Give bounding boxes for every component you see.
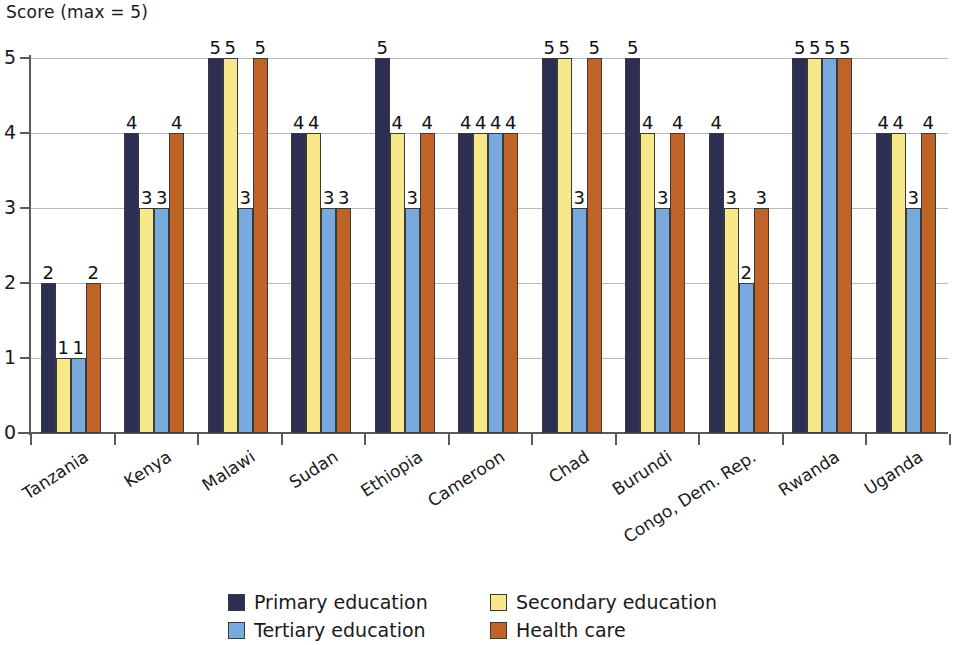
- bar[interactable]: 3: [336, 208, 351, 433]
- chart-axis-title: Score (max = 5): [6, 2, 148, 22]
- bar-group: 4444: [448, 58, 532, 433]
- bar[interactable]: 1: [71, 358, 86, 433]
- bar-value-label: 4: [923, 114, 934, 132]
- bar[interactable]: 4: [876, 133, 891, 433]
- x-tick-mark: [114, 434, 116, 445]
- bar[interactable]: 3: [572, 208, 587, 433]
- bar[interactable]: 4: [891, 133, 906, 433]
- y-tick-mark: [20, 207, 30, 209]
- legend-item-primary-education: Primary education: [228, 593, 490, 612]
- x-tick-mark: [30, 434, 32, 445]
- bar[interactable]: 4: [291, 133, 306, 433]
- bar[interactable]: 5: [625, 58, 640, 433]
- legend-row: Primary education Secondary education: [228, 588, 788, 616]
- bar-group: 4433: [281, 58, 365, 433]
- bar[interactable]: 5: [822, 58, 837, 433]
- bar[interactable]: 5: [223, 58, 238, 433]
- bar-value-label: 3: [908, 189, 919, 207]
- bar[interactable]: 4: [921, 133, 936, 433]
- x-tick-mark: [364, 434, 366, 445]
- bar[interactable]: 5: [557, 58, 572, 433]
- legend-swatch-icon: [490, 594, 507, 611]
- bar[interactable]: 4: [709, 133, 724, 433]
- bar-group: 4323: [698, 58, 782, 433]
- bar-value-label: 3: [726, 189, 737, 207]
- bar[interactable]: 3: [724, 208, 739, 433]
- bar[interactable]: 3: [655, 208, 670, 433]
- legend-item-health-care: Health care: [490, 621, 752, 640]
- x-tick-mark: [615, 434, 617, 445]
- x-tick-mark: [698, 434, 700, 445]
- bar[interactable]: 4: [488, 133, 503, 433]
- bar-value-label: 2: [88, 264, 99, 282]
- bar-value-label: 3: [156, 189, 167, 207]
- bar-value-label: 3: [323, 189, 334, 207]
- bar-value-label: 5: [225, 39, 236, 57]
- bar[interactable]: 1: [56, 358, 71, 433]
- legend-label: Primary education: [254, 593, 428, 612]
- bar-value-label: 5: [544, 39, 555, 57]
- x-tick-mark: [531, 434, 533, 445]
- bar-value-label: 4: [308, 114, 319, 132]
- bar[interactable]: 5: [587, 58, 602, 433]
- y-tick-mark: [20, 432, 30, 434]
- chart-legend: Primary education Secondary education Te…: [228, 588, 788, 644]
- bar-value-label: 4: [505, 114, 516, 132]
- bar-value-label: 3: [407, 189, 418, 207]
- bar[interactable]: 4: [390, 133, 405, 433]
- bar[interactable]: 4: [503, 133, 518, 433]
- bar[interactable]: 4: [670, 133, 685, 433]
- x-axis-label: Malawi: [199, 448, 258, 494]
- x-axis-label: Sudan: [287, 448, 341, 491]
- x-axis-label: Rwanda: [776, 448, 842, 499]
- bar[interactable]: 3: [405, 208, 420, 433]
- bar[interactable]: 5: [542, 58, 557, 433]
- bar[interactable]: 3: [754, 208, 769, 433]
- bar-value-label: 4: [460, 114, 471, 132]
- bar[interactable]: 3: [139, 208, 154, 433]
- bar-value-label: 4: [490, 114, 501, 132]
- bar[interactable]: 3: [321, 208, 336, 433]
- x-tick-mark: [782, 434, 784, 445]
- legend-label: Secondary education: [516, 593, 717, 612]
- bar-value-label: 5: [839, 39, 850, 57]
- bar-value-label: 4: [171, 114, 182, 132]
- bar[interactable]: 4: [124, 133, 139, 433]
- bar[interactable]: 3: [906, 208, 921, 433]
- y-tick-mark: [20, 57, 30, 59]
- bar[interactable]: 3: [238, 208, 253, 433]
- bar[interactable]: 4: [458, 133, 473, 433]
- bar-group: 4434: [865, 58, 949, 433]
- bar[interactable]: 5: [253, 58, 268, 433]
- bar[interactable]: 4: [473, 133, 488, 433]
- legend-swatch-icon: [490, 622, 507, 639]
- bar[interactable]: 2: [86, 283, 101, 433]
- bar[interactable]: 4: [420, 133, 435, 433]
- bar[interactable]: 5: [208, 58, 223, 433]
- bar-value-label: 3: [574, 189, 585, 207]
- bar-value-label: 4: [672, 114, 683, 132]
- bar-value-label: 4: [893, 114, 904, 132]
- x-axis-label: Cameroon: [425, 448, 508, 510]
- bar-value-label: 3: [240, 189, 251, 207]
- legend-row: Tertiary education Health care: [228, 616, 788, 644]
- bar[interactable]: 4: [169, 133, 184, 433]
- bar-value-label: 5: [627, 39, 638, 57]
- bar[interactable]: 2: [41, 283, 56, 433]
- bar-value-label: 5: [794, 39, 805, 57]
- y-tick-mark: [20, 357, 30, 359]
- bar[interactable]: 5: [807, 58, 822, 433]
- bar[interactable]: 5: [792, 58, 807, 433]
- bar-value-label: 5: [824, 39, 835, 57]
- bar[interactable]: 2: [739, 283, 754, 433]
- bar-value-label: 4: [475, 114, 486, 132]
- y-tick-label: 2: [0, 273, 16, 292]
- bar[interactable]: 4: [640, 133, 655, 433]
- legend-swatch-icon: [228, 622, 245, 639]
- bar-value-label: 1: [58, 339, 69, 357]
- bar[interactable]: 5: [375, 58, 390, 433]
- bar[interactable]: 5: [837, 58, 852, 433]
- bar[interactable]: 4: [306, 133, 321, 433]
- y-tick-label: 0: [0, 423, 16, 442]
- bar[interactable]: 3: [154, 208, 169, 433]
